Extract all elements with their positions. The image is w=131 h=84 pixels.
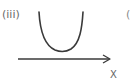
u-curve [39,12,83,51]
axis-label-x: X [110,70,117,80]
x-axis-arrow [18,55,110,63]
